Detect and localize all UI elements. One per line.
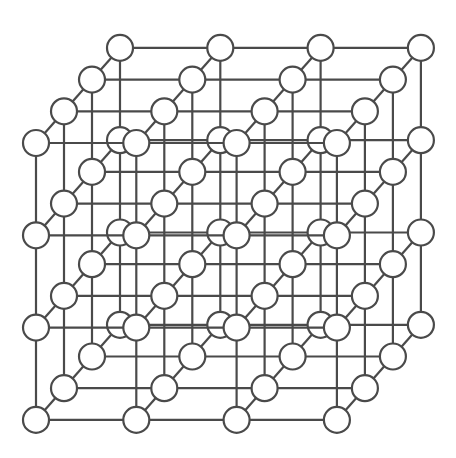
lattice-atom — [179, 344, 205, 370]
lattice-atom — [380, 251, 406, 277]
lattice-atom — [352, 191, 378, 217]
lattice-canvas — [0, 0, 456, 458]
lattice-atom — [79, 67, 105, 93]
lattice-atom — [207, 35, 233, 61]
lattice-atom — [79, 251, 105, 277]
lattice-atom — [123, 222, 149, 248]
lattice-atom — [179, 159, 205, 185]
lattice-atom — [179, 251, 205, 277]
lattice-atom — [51, 283, 77, 309]
lattice-atom — [224, 315, 250, 341]
lattice-atom — [408, 35, 434, 61]
lattice-atom — [408, 220, 434, 246]
lattice-atom — [179, 67, 205, 93]
lattice-atom — [151, 283, 177, 309]
lattice-atom — [380, 159, 406, 185]
lattice-atom — [352, 375, 378, 401]
lattice-atom — [408, 312, 434, 338]
lattice-atom — [51, 375, 77, 401]
lattice-atom — [23, 222, 49, 248]
lattice-atom — [324, 130, 350, 156]
lattice-atom — [151, 98, 177, 124]
lattice-atom — [280, 251, 306, 277]
lattice-atom — [107, 35, 133, 61]
lattice-atom — [79, 159, 105, 185]
lattice-atom — [123, 407, 149, 433]
bonds-layer — [23, 35, 434, 433]
lattice-atom — [280, 159, 306, 185]
lattice-atom — [308, 35, 334, 61]
lattice-atom — [123, 315, 149, 341]
lattice-atom — [51, 98, 77, 124]
lattice-atom — [352, 283, 378, 309]
lattice-atom — [224, 130, 250, 156]
lattice-atom — [324, 407, 350, 433]
lattice-atom — [280, 67, 306, 93]
lattice-atom — [123, 130, 149, 156]
lattice-atom — [252, 98, 278, 124]
lattice-atom — [380, 67, 406, 93]
lattice-atom — [51, 191, 77, 217]
lattice-atom — [23, 130, 49, 156]
lattice-atom — [252, 375, 278, 401]
lattice-atom — [23, 407, 49, 433]
lattice-atom — [352, 98, 378, 124]
lattice-atom — [408, 127, 434, 153]
lattice-atom — [380, 344, 406, 370]
cubic-crystal-lattice-figure: Cubic crystal lattice — [0, 0, 456, 458]
lattice-atom — [324, 315, 350, 341]
lattice-atom — [224, 407, 250, 433]
lattice-atom — [23, 315, 49, 341]
lattice-atom — [151, 375, 177, 401]
lattice-atom — [324, 222, 350, 248]
lattice-atom — [252, 191, 278, 217]
lattice-atom — [79, 344, 105, 370]
lattice-atom — [252, 283, 278, 309]
lattice-atom — [224, 222, 250, 248]
lattice-atom — [151, 191, 177, 217]
lattice-atom — [280, 344, 306, 370]
